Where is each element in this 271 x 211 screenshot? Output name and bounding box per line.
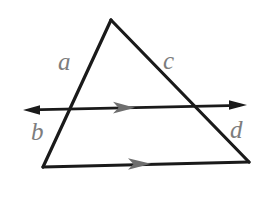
geometry-figure: a c b d <box>0 0 271 211</box>
angle-label-c: c <box>163 48 174 73</box>
triangle-right-side <box>111 20 249 162</box>
transversal-right-arrowhead <box>229 100 247 109</box>
transversal-left-arrowhead <box>23 105 40 114</box>
angle-label-d: d <box>230 117 243 142</box>
angle-label-b: b <box>31 119 44 144</box>
triangle-left-side <box>43 20 111 167</box>
angle-label-a: a <box>58 49 71 74</box>
transversal-line <box>30 105 240 110</box>
geometry-diagram-canvas <box>0 0 271 211</box>
